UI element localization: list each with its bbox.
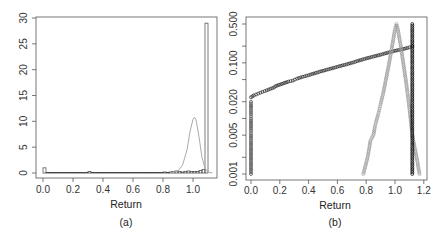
histogram-bar (190, 171, 193, 173)
plot-frame (36, 17, 217, 178)
histogram-bar (112, 172, 115, 173)
histogram-bar (121, 172, 124, 173)
histogram-bar (118, 172, 121, 173)
histogram-bar (76, 172, 79, 173)
histogram-bar (70, 172, 73, 173)
x-tick-label: 0.6 (330, 185, 344, 196)
x-tick-label: 0.2 (66, 184, 80, 195)
histogram-bar (139, 172, 142, 173)
histogram-bar (91, 172, 94, 173)
histogram-bar (184, 171, 187, 173)
histogram-bar (79, 172, 82, 173)
histogram-bar (205, 23, 208, 173)
histogram-bar (136, 172, 139, 173)
histogram-bar (100, 172, 103, 173)
histogram-bar (103, 172, 106, 173)
data-point (299, 76, 302, 79)
histogram-bar (43, 168, 46, 173)
histogram-bar (202, 169, 205, 173)
histogram-bar (163, 172, 166, 173)
y-tick-label: 0.500 (228, 11, 239, 36)
x-tick-label: 0.4 (96, 184, 110, 195)
y-tick-label: 0.001 (228, 161, 239, 186)
histogram-bar (160, 172, 163, 173)
histogram-bar (52, 172, 55, 173)
y-tick-label: 5 (18, 144, 29, 150)
y-tick-label: 15 (18, 90, 29, 102)
histogram-bar (196, 171, 199, 173)
panel-b-scatter: 0.0010.0050.0200.1000.5000.00.20.40.60.8… (228, 11, 431, 228)
histogram-bar (187, 171, 190, 173)
histogram-bar (73, 172, 76, 173)
histogram-bar (58, 172, 61, 173)
histogram-bar (133, 172, 136, 173)
series-black-vertical-at-1.12 (411, 23, 414, 176)
histogram-bars (43, 23, 208, 173)
x-axis-title: Return (319, 199, 351, 211)
y-tick-label: 20 (18, 64, 29, 76)
histogram-bar (67, 172, 70, 173)
histogram-bar (130, 172, 133, 173)
y-tick-label: 25 (18, 38, 29, 50)
y-tick-label: 0.005 (228, 122, 239, 147)
y-tick-label: 0.020 (228, 89, 239, 114)
histogram-bar (145, 172, 148, 173)
histogram-bar (142, 172, 145, 173)
x-tick-label: 1.0 (186, 184, 200, 195)
histogram-bar (85, 172, 88, 173)
histogram-bar (124, 172, 127, 173)
histogram-bar (148, 172, 151, 173)
histogram-bar (193, 171, 196, 173)
x-tick-label: 1.2 (417, 185, 431, 196)
histogram-bar (154, 172, 157, 173)
histogram-bar (94, 172, 97, 173)
histogram-bar (61, 172, 64, 173)
y-tick-label: 10 (18, 115, 29, 127)
histogram-bar (157, 172, 160, 173)
x-tick-label: 0.8 (156, 184, 170, 195)
histogram-bar (88, 171, 91, 173)
x-tick-label: 0.2 (273, 185, 287, 196)
x-tick-label: 0.8 (359, 185, 373, 196)
x-tick-label: 1.0 (388, 185, 402, 196)
panel-a-histogram: 0510152025300.00.20.40.60.81.0Return(a) (18, 12, 217, 228)
x-axis-title: Return (110, 198, 142, 210)
x-tick-label: 0.4 (302, 185, 316, 196)
panel-caption: (b) (329, 216, 342, 228)
histogram-bar (82, 172, 85, 173)
histogram-bar (199, 170, 202, 173)
density-curve (171, 117, 213, 173)
data-point (298, 77, 301, 80)
y-tick-label: 30 (18, 12, 29, 24)
panel-caption: (a) (120, 216, 133, 228)
histogram-bar (181, 172, 184, 173)
histogram-bar (127, 172, 130, 173)
x-tick-label: 0.0 (244, 185, 258, 196)
data-point (303, 75, 306, 78)
histogram-bar (178, 171, 181, 173)
x-tick-label: 0.6 (126, 184, 140, 195)
y-tick-label: 0.100 (228, 50, 239, 75)
histogram-bar (115, 172, 118, 173)
histogram-bar (166, 172, 169, 173)
data-point (408, 46, 411, 49)
histogram-bar (49, 172, 52, 173)
histogram-bar (55, 172, 58, 173)
histogram-bar (97, 172, 100, 173)
histogram-bar (106, 172, 109, 173)
y-tick-label: 0 (18, 170, 29, 176)
histogram-bar (46, 172, 49, 173)
histogram-bar (151, 172, 154, 173)
histogram-bar (64, 172, 67, 173)
figure: 0510152025300.00.20.40.60.81.0Return(a) … (0, 0, 447, 237)
x-tick-label: 0.0 (36, 184, 50, 195)
histogram-bar (109, 172, 112, 173)
series-vertical-at-zero (250, 100, 253, 175)
